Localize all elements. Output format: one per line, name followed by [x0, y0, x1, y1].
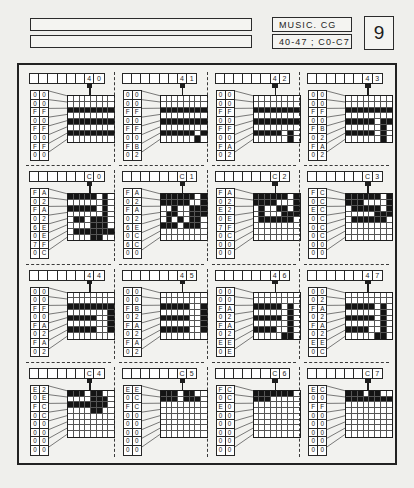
- byte-value-column[interactable]: FA02FA026E0E7F0C: [30, 188, 49, 259]
- byte-value-row[interactable]: 00: [217, 117, 234, 126]
- code-strip-blank-box[interactable]: [150, 271, 159, 280]
- code-strip-blank-box[interactable]: [234, 271, 243, 280]
- code-strip-blank-box[interactable]: [243, 369, 252, 378]
- character-cell-C4[interactable]: C4E20EFC0C00000000: [22, 363, 115, 461]
- byte-value-row[interactable]: FA: [124, 189, 141, 198]
- byte-value-row[interactable]: 0E: [217, 215, 234, 224]
- header-code-range-field[interactable]: 40-47 ; C0-C7: [272, 34, 352, 49]
- byte-value-row[interactable]: 00: [309, 249, 326, 258]
- code-strip-blank-box[interactable]: [67, 74, 76, 83]
- code-strip-blank-box[interactable]: [76, 74, 85, 83]
- byte-value-row[interactable]: 02: [124, 313, 141, 322]
- byte-value-row[interactable]: FF: [217, 108, 234, 117]
- code-strip-blank-box[interactable]: [30, 74, 39, 83]
- byte-value-row[interactable]: 00: [217, 91, 234, 100]
- byte-value-row[interactable]: 00: [309, 420, 326, 429]
- byte-value-row[interactable]: 00: [31, 117, 48, 126]
- code-strip[interactable]: C4: [29, 368, 105, 379]
- character-cell-44[interactable]: 440000FF00FA02FA02: [22, 265, 115, 363]
- byte-value-column[interactable]: 0002FA02FA02EE0C: [308, 287, 327, 358]
- code-strip-blank-box[interactable]: [123, 74, 132, 83]
- byte-value-row[interactable]: FA: [124, 339, 141, 348]
- byte-value-row[interactable]: FC: [31, 403, 48, 412]
- byte-value-row[interactable]: 02: [309, 296, 326, 305]
- byte-value-row[interactable]: FA: [217, 322, 234, 331]
- code-strip-blank-box[interactable]: [308, 271, 317, 280]
- byte-value-row[interactable]: 00: [31, 151, 48, 160]
- code-strip-blank-box[interactable]: [225, 172, 234, 181]
- code-strip-blank-box[interactable]: [160, 271, 169, 280]
- byte-value-row[interactable]: FC: [217, 386, 234, 395]
- code-strip-blank-box[interactable]: [345, 271, 354, 280]
- code-strip-blank-box[interactable]: [216, 369, 225, 378]
- code-strip-blank-box[interactable]: [30, 369, 39, 378]
- code-strip-blank-box[interactable]: [308, 369, 317, 378]
- byte-value-column[interactable]: FC0CEC0C0C0C0000: [308, 188, 327, 259]
- bitmap-pixel-off[interactable]: [294, 333, 300, 339]
- byte-value-row[interactable]: 00: [31, 134, 48, 143]
- code-strip-blank-box[interactable]: [123, 172, 132, 181]
- byte-value-row[interactable]: 0E: [31, 232, 48, 241]
- byte-value-row[interactable]: 6E: [31, 224, 48, 233]
- bitmap-grid[interactable]: [345, 390, 393, 438]
- byte-value-row[interactable]: 00: [309, 446, 326, 455]
- byte-value-row[interactable]: 00: [31, 446, 48, 455]
- byte-value-row[interactable]: 00: [124, 100, 141, 109]
- character-cell-40[interactable]: 400000FF00FF00FF00: [22, 68, 115, 166]
- byte-value-row[interactable]: 00: [217, 134, 234, 143]
- code-strip-blank-box[interactable]: [354, 74, 363, 83]
- code-strip[interactable]: 41: [122, 73, 198, 84]
- byte-value-column[interactable]: 0000FF00FF00FA02: [216, 90, 235, 161]
- code-strip-blank-box[interactable]: [39, 172, 48, 181]
- code-strip-blank-box[interactable]: [243, 271, 252, 280]
- byte-value-row[interactable]: 00: [309, 241, 326, 250]
- code-strip-blank-box[interactable]: [317, 172, 326, 181]
- byte-value-column[interactable]: FC0CE00000000000: [216, 385, 235, 456]
- bitmap-pixel-off[interactable]: [201, 431, 207, 437]
- byte-value-row[interactable]: 00: [309, 429, 326, 438]
- byte-value-row[interactable]: FC: [124, 403, 141, 412]
- byte-value-row[interactable]: EE: [309, 339, 326, 348]
- byte-value-column[interactable]: FA02FA026E0C6C00: [123, 188, 142, 259]
- byte-value-row[interactable]: 00: [31, 288, 48, 297]
- code-strip-blank-box[interactable]: [67, 172, 76, 181]
- code-strip[interactable]: C5: [122, 368, 198, 379]
- code-strip-blank-box[interactable]: [169, 74, 178, 83]
- code-strip-blank-box[interactable]: [132, 369, 141, 378]
- bitmap-grid[interactable]: [345, 292, 393, 340]
- code-strip[interactable]: C7: [307, 368, 383, 379]
- byte-value-row[interactable]: FF: [31, 305, 48, 314]
- byte-value-column[interactable]: 0000FB02FA02FA02: [123, 287, 142, 358]
- code-strip-blank-box[interactable]: [234, 172, 243, 181]
- byte-value-row[interactable]: 00: [217, 288, 234, 297]
- byte-value-row[interactable]: 0C: [309, 198, 326, 207]
- byte-value-row[interactable]: 02: [217, 198, 234, 207]
- byte-value-row[interactable]: FF: [31, 108, 48, 117]
- byte-value-row[interactable]: 6E: [124, 224, 141, 233]
- code-strip-blank-box[interactable]: [132, 271, 141, 280]
- character-cell-C0[interactable]: C0FA02FA026E0E7F0C: [22, 166, 115, 264]
- code-strip-blank-box[interactable]: [150, 172, 159, 181]
- code-strip-blank-box[interactable]: [327, 172, 336, 181]
- character-cell-47[interactable]: 470002FA02FA02EE0C: [300, 265, 393, 363]
- bitmap-grid[interactable]: [67, 390, 115, 438]
- byte-value-column[interactable]: 0000FF00FF00FB02: [123, 90, 142, 161]
- byte-value-row[interactable]: FB: [124, 305, 141, 314]
- byte-value-column[interactable]: 0000FF00FB02FA02: [308, 90, 327, 161]
- code-strip[interactable]: C3: [307, 171, 383, 182]
- byte-value-row[interactable]: 02: [309, 330, 326, 339]
- byte-value-row[interactable]: 02: [309, 134, 326, 143]
- code-strip-blank-box[interactable]: [327, 271, 336, 280]
- bitmap-pixel-off[interactable]: [294, 136, 300, 142]
- code-strip-blank-box[interactable]: [234, 74, 243, 83]
- byte-value-row[interactable]: 02: [31, 330, 48, 339]
- bitmap-pixel-off[interactable]: [108, 235, 114, 241]
- character-cell-41[interactable]: 410000FF00FF00FB02: [115, 68, 208, 166]
- byte-value-row[interactable]: 0C: [31, 412, 48, 421]
- byte-value-row[interactable]: 02: [309, 313, 326, 322]
- code-strip-blank-box[interactable]: [141, 271, 150, 280]
- bitmap-pixel-off[interactable]: [294, 235, 300, 241]
- byte-value-row[interactable]: 00: [309, 288, 326, 297]
- code-strip-blank-box[interactable]: [336, 172, 345, 181]
- byte-value-row[interactable]: 00: [309, 412, 326, 421]
